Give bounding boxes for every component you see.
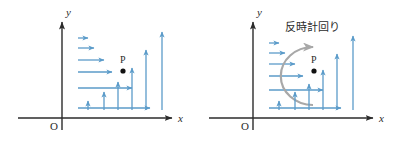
panel-right-svg: y x O 反時計回り xyxy=(201,0,402,156)
panel-right: y x O 反時計回り xyxy=(201,0,402,156)
y-axis-right: y xyxy=(253,6,262,130)
y-axis-left: y xyxy=(62,6,71,130)
x-axis-label: x xyxy=(378,112,384,124)
origin-label: O xyxy=(241,120,249,132)
panel-left: y x O xyxy=(0,0,201,156)
vertical-vector-field xyxy=(279,36,353,110)
x-axis-label: x xyxy=(177,112,183,124)
point-label-P: P xyxy=(120,54,126,65)
point-label-P: P xyxy=(311,54,317,65)
y-axis-label: y xyxy=(256,6,262,18)
point-P-right: P xyxy=(311,54,317,74)
point-marker xyxy=(120,68,125,73)
figure-container: y x O xyxy=(0,0,402,156)
x-axis-right: x xyxy=(209,112,384,124)
y-axis-label: y xyxy=(65,6,71,18)
x-axis-left: x xyxy=(18,112,183,124)
point-marker xyxy=(311,68,316,73)
horizontal-vector-field xyxy=(78,38,150,108)
rotation-annotation-label: 反時計回り xyxy=(285,20,340,34)
point-P-left: P xyxy=(120,54,126,74)
origin-label: O xyxy=(50,120,58,132)
panel-left-svg: y x O xyxy=(0,0,201,156)
